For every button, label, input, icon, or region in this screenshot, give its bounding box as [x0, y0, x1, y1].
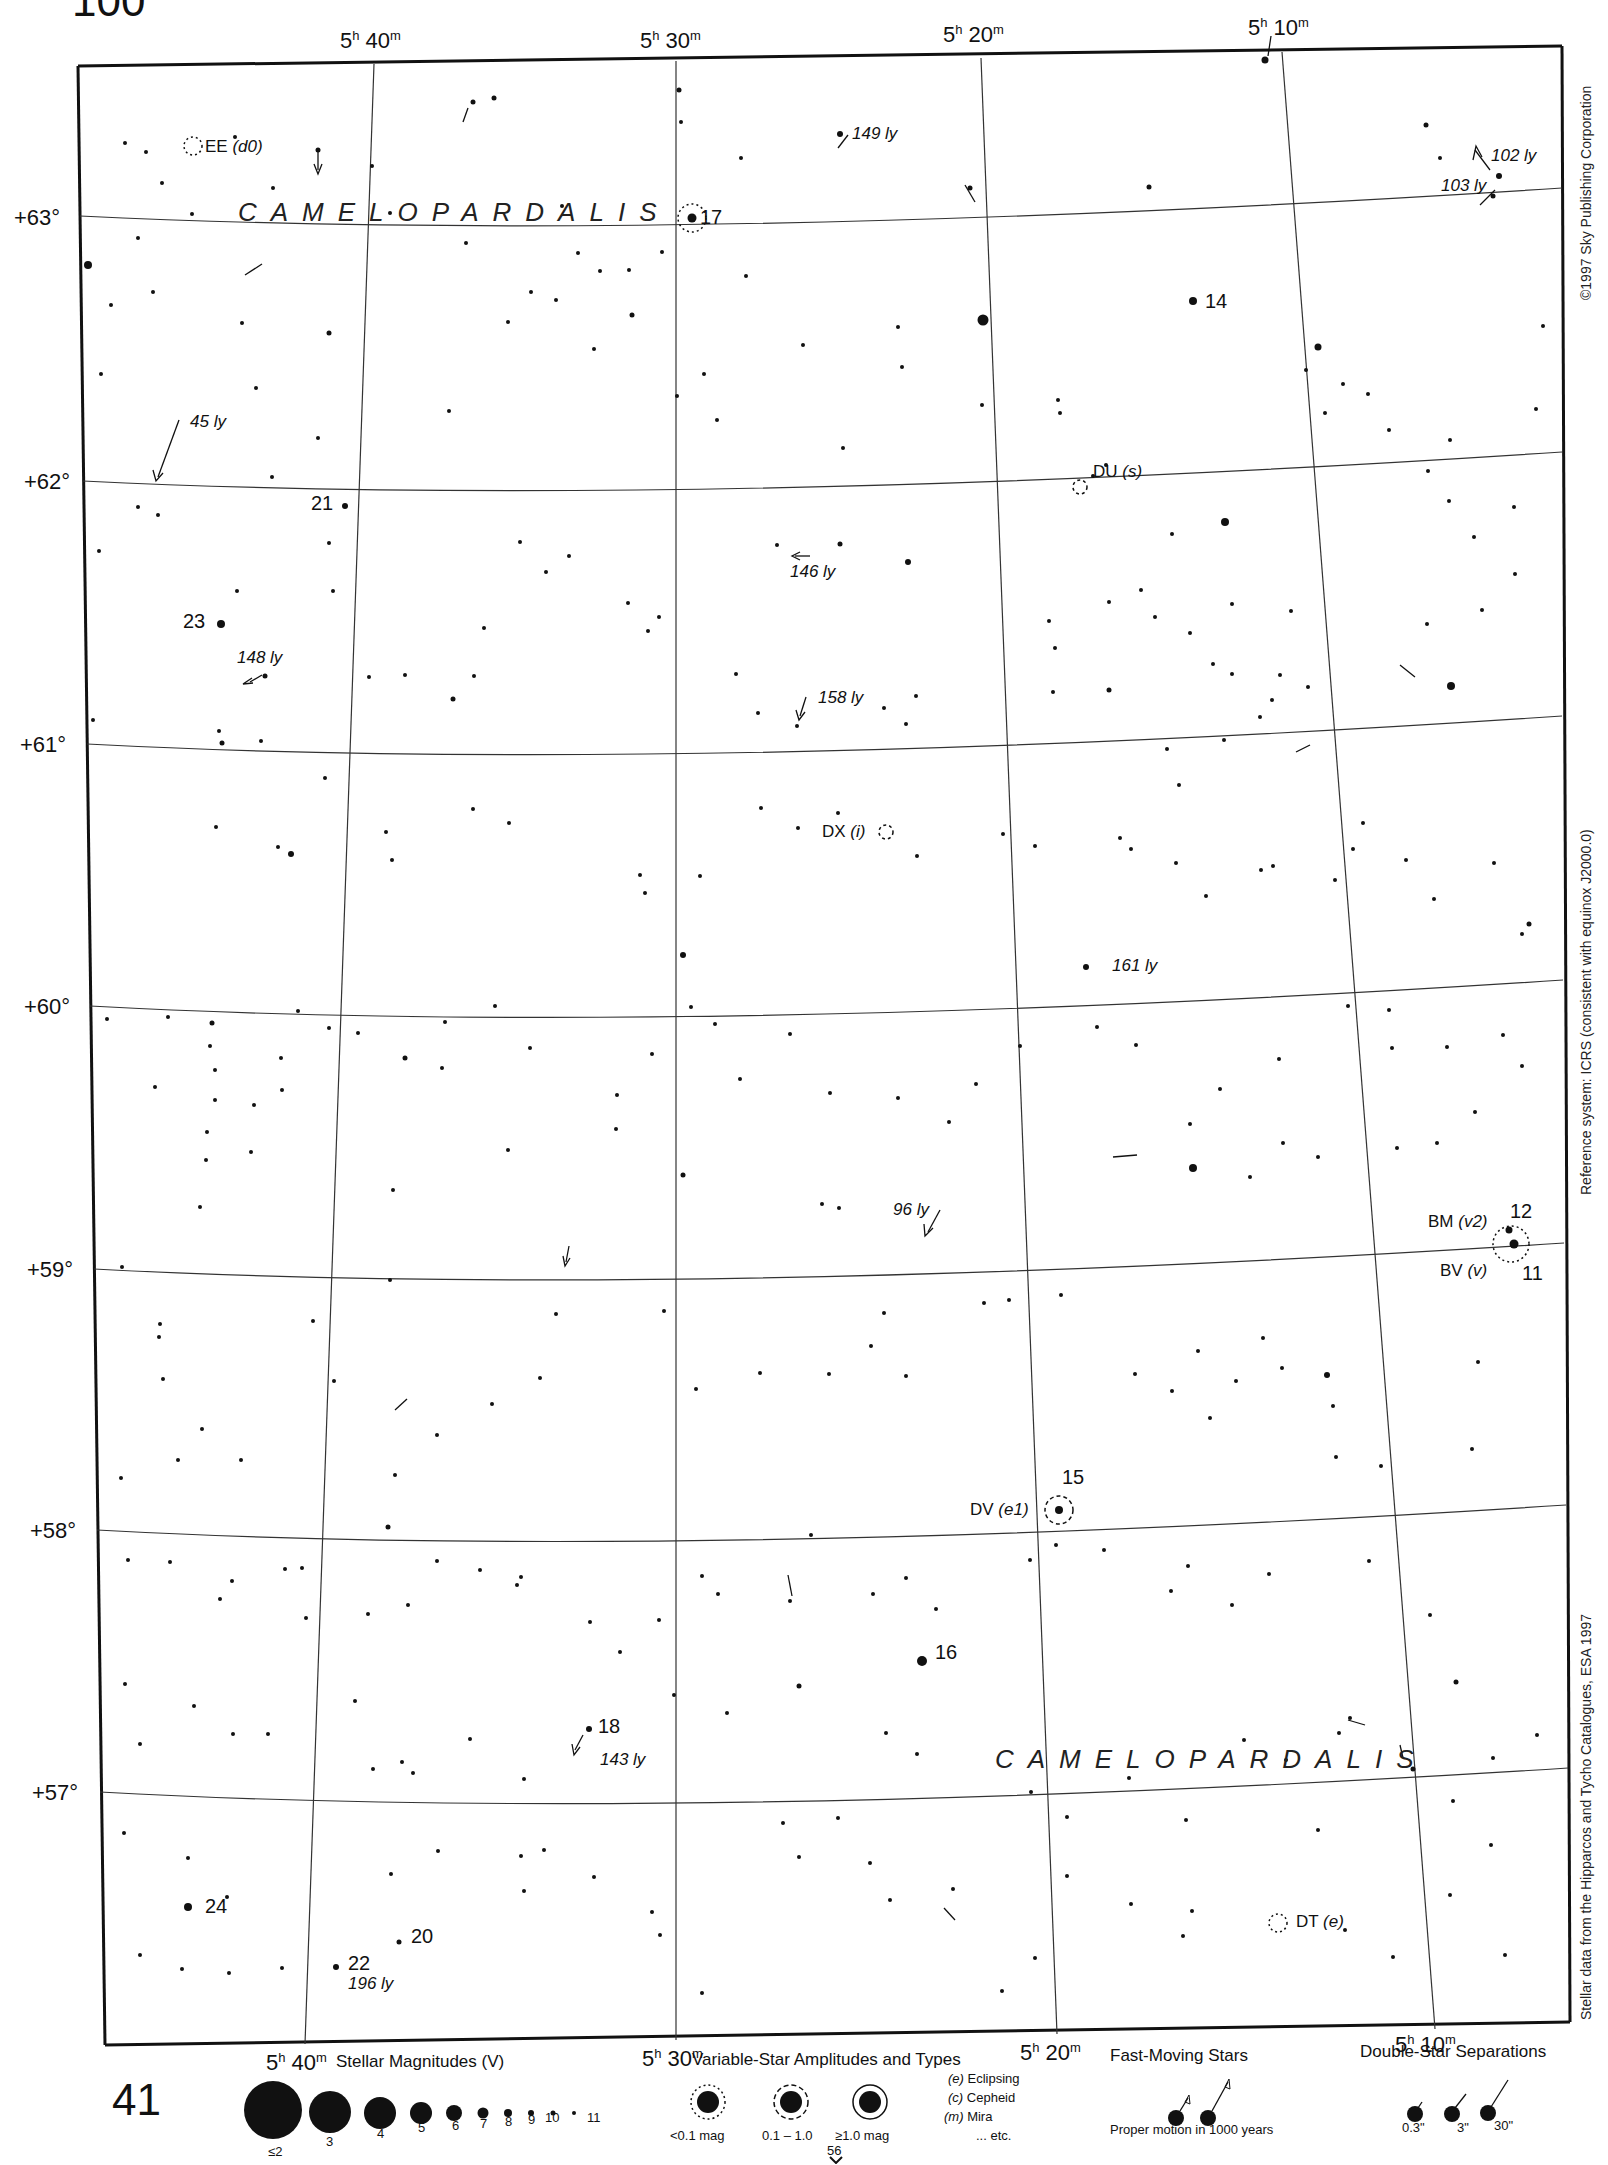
star	[490, 1402, 494, 1406]
star	[1337, 1731, 1341, 1735]
star	[1512, 505, 1516, 509]
star	[1242, 1738, 1246, 1742]
star	[239, 1458, 243, 1462]
star	[837, 1206, 841, 1210]
star	[1165, 747, 1169, 751]
star	[681, 1173, 686, 1178]
star	[1331, 1404, 1335, 1408]
star	[1476, 1360, 1480, 1364]
star	[1181, 1934, 1185, 1938]
star	[542, 1848, 546, 1852]
star	[1186, 1564, 1190, 1568]
star	[646, 629, 650, 633]
star	[370, 164, 374, 168]
star	[725, 1711, 729, 1715]
star	[1188, 1122, 1192, 1126]
star	[1480, 608, 1484, 612]
star	[468, 1737, 472, 1741]
ra-label: 5h 40m	[266, 2050, 327, 2076]
star	[1054, 1543, 1058, 1547]
star	[1129, 847, 1133, 851]
star-label: 11	[1522, 1262, 1543, 1285]
star	[618, 1650, 622, 1654]
star	[198, 1205, 202, 1209]
legend-title: Double-Star Separations	[1360, 2042, 1546, 2062]
star	[204, 1158, 208, 1162]
star	[567, 554, 571, 558]
star	[1367, 1559, 1371, 1563]
star	[1204, 894, 1208, 898]
star	[231, 1732, 235, 1736]
star	[435, 1559, 439, 1563]
star	[801, 343, 805, 347]
amplitude-label: 0.1 – 1.0	[762, 2128, 813, 2143]
star	[218, 1597, 222, 1601]
star	[1324, 1372, 1330, 1378]
star	[411, 1771, 415, 1775]
star	[1174, 861, 1178, 865]
star	[356, 1031, 360, 1035]
star	[1007, 1298, 1011, 1302]
star	[1230, 672, 1234, 676]
star	[836, 811, 840, 815]
star	[1065, 1815, 1069, 1819]
star	[1170, 532, 1174, 536]
star	[316, 436, 320, 440]
star	[838, 542, 843, 547]
star	[650, 1052, 654, 1056]
star	[904, 722, 908, 726]
variable-label: BV (v)	[1440, 1261, 1487, 1281]
legend-caption: Proper motion in 1000 years	[1110, 2122, 1273, 2137]
star	[917, 1656, 927, 1666]
star	[951, 1887, 955, 1891]
reference-system-text: Reference system: ICRS (consistent with …	[1578, 829, 1594, 1195]
star	[758, 1371, 762, 1375]
star	[1379, 1464, 1383, 1468]
star	[300, 1566, 304, 1570]
star	[1029, 1790, 1033, 1794]
star	[464, 241, 468, 245]
ra-label: 5h 10m	[1248, 15, 1309, 41]
star	[1139, 588, 1143, 592]
star	[1491, 1756, 1495, 1760]
star	[280, 1088, 284, 1092]
star	[1520, 932, 1524, 936]
star	[680, 952, 686, 958]
star	[217, 620, 225, 628]
star	[388, 1278, 392, 1282]
next-page-arrow-icon[interactable]	[829, 2156, 843, 2164]
star	[400, 1760, 404, 1764]
star	[443, 1020, 447, 1024]
star	[1107, 600, 1111, 604]
star	[896, 325, 900, 329]
dec-label: +62°	[24, 469, 70, 495]
star	[1059, 1293, 1063, 1297]
star	[1055, 1506, 1063, 1514]
star	[1351, 847, 1355, 851]
star	[797, 1684, 802, 1689]
star	[1391, 1955, 1395, 1959]
star	[662, 1309, 666, 1313]
star	[327, 541, 331, 545]
star	[1170, 1389, 1174, 1393]
variable-star-rings	[184, 137, 1529, 1932]
star	[214, 825, 218, 829]
star	[270, 475, 274, 479]
star	[947, 1120, 951, 1124]
star	[915, 1752, 919, 1756]
star	[1447, 499, 1451, 503]
dec-label: +60°	[24, 994, 70, 1020]
amplitude-label: ≥1.0 mag	[835, 2128, 889, 2143]
star	[836, 1816, 840, 1820]
variable-label: DU (s)	[1093, 462, 1142, 482]
star	[1129, 1902, 1133, 1906]
star	[1259, 868, 1263, 872]
star	[519, 1575, 523, 1579]
ra-label: 5h 20m	[1020, 2040, 1081, 2066]
star	[391, 1188, 395, 1192]
star	[882, 706, 886, 710]
distance-label: 196 ly	[348, 1974, 393, 1994]
star	[544, 570, 548, 574]
star	[160, 181, 164, 185]
star	[123, 141, 127, 145]
